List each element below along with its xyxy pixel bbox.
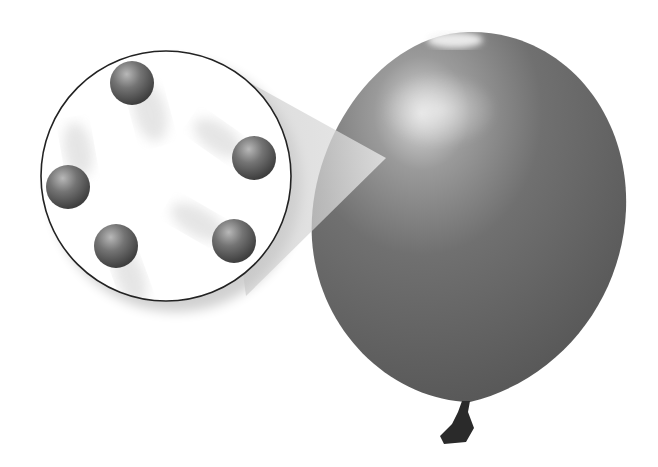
diagram-stage <box>0 0 658 467</box>
gas-particle <box>110 61 154 105</box>
balloon-diagram <box>0 0 658 467</box>
balloon <box>312 32 627 444</box>
gas-particle <box>94 224 138 268</box>
gas-particle <box>46 165 90 209</box>
balloon-top-glare <box>427 32 483 48</box>
balloon-knot-icon <box>440 401 474 444</box>
gas-particle <box>212 219 256 263</box>
balloon-highlight <box>382 72 498 148</box>
gas-particle <box>232 136 276 180</box>
